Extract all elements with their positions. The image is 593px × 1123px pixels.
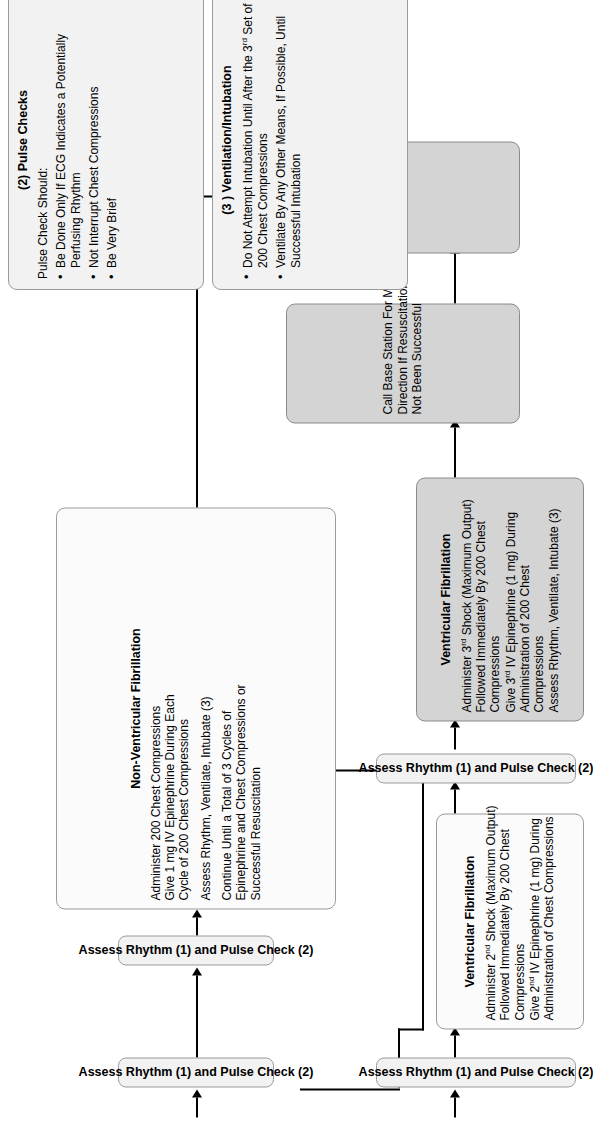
box-ventricular-fibrillation-3rd[interactable]: Ventricular Fibrillation Administer 3rd …	[416, 477, 584, 721]
box-line: Direction If Resuscitation Has	[396, 312, 410, 414]
box-line: Followed Immediately By 200 Chest	[498, 822, 512, 1020]
box-line: Epinephrine and Chest Compressions or	[234, 516, 248, 900]
note-bullet: Do Not Attempt Intubation Until After th…	[240, 1, 271, 279]
box-line: Successful Resuscitation	[249, 516, 263, 900]
assess-rhythm-bar-2-label: Assess Rhythm (1) and Pulse Check (2)	[79, 943, 314, 957]
arrowhead-in-bar3	[192, 1089, 202, 1097]
note-title: (3 ) Ventilation/Intubation	[220, 1, 234, 279]
connector-in-bar1	[454, 1097, 456, 1117]
assess-rhythm-bar-2[interactable]: Assess Rhythm (1) and Pulse Check (2)	[118, 935, 274, 965]
assess-rhythm-bar-3[interactable]: Assess Rhythm (1) and Pulse Check (2)	[376, 1057, 576, 1087]
assess-rhythm-bar-1[interactable]: Assess Rhythm (1) and Pulse Check (2)	[118, 1057, 274, 1087]
note-bullet: Be Done Only If ECG Indicates a Potentia…	[54, 1, 84, 279]
spacer	[213, 516, 220, 900]
box-line: Administer 2nd Shock (Maximum Output)	[483, 822, 498, 1020]
box-line: Give 2nd IV Epinephrine (1 mg) During	[527, 822, 542, 1020]
box-title: Ventricular Fibrillation	[463, 822, 478, 1020]
box-title: Ventricular Fibrillation	[439, 486, 454, 712]
note-pulse-checks[interactable]: (2) Pulse Checks Pulse Check Should: Be …	[8, 0, 204, 290]
box-line: Administration of Chest Compressions	[542, 822, 556, 1020]
note-bullet: Not Interrupt Chest Compressions	[87, 1, 102, 279]
box-non-ventricular-fibrillation[interactable]: Non-Ventricular Fibrillation Administer …	[56, 507, 336, 909]
note-ventilation-intubation[interactable]: (3 ) Ventilation/Intubation Do Not Attem…	[212, 0, 408, 290]
box-line: Administer 3rd Shock (Maximum Output)	[459, 486, 474, 712]
box-ventricular-fibrillation-2nd[interactable]: Ventricular Fibrillation Administer 2nd …	[436, 813, 584, 1029]
assess-rhythm-bar-4-label: Assess Rhythm (1) and Pulse Check (2)	[359, 761, 593, 775]
arrowhead-bar3-bar4	[192, 967, 202, 975]
note-title: (2) Pulse Checks	[16, 1, 30, 279]
box-line: Compressions	[513, 822, 527, 1020]
box-line: Not Been Successful	[410, 312, 424, 414]
box-title: Non-Ventricular Fibrillation	[129, 516, 144, 900]
box-line: Give 1 mg IV Epinephrine During Each	[163, 516, 177, 900]
note-bullet: Ventilate By Any Other Means, If Possibl…	[274, 1, 304, 279]
box-line: Give 3rd IV Epinephrine (1 mg) During	[503, 486, 518, 712]
connector-bar2-vf3	[454, 727, 456, 749]
box-line: Administration of 200 Chest	[518, 486, 532, 712]
box-line: Assess Rhythm, Ventilate, Intubate (3)	[199, 516, 213, 900]
box-line: Compressions	[488, 486, 502, 712]
box-line: Compressions	[532, 486, 546, 712]
box-line: Assess Rhythm, Ventilate, Intubate (3)	[547, 486, 561, 712]
connector-in-bar3	[196, 1097, 198, 1117]
spacer	[192, 516, 199, 900]
box-call-base-station[interactable]: Call Base Station For Medical Direction …	[286, 303, 520, 423]
connector-vf2-bar2	[454, 789, 456, 813]
assess-rhythm-bar-4[interactable]: Assess Rhythm (1) and Pulse Check (2)	[376, 753, 576, 783]
note-intro: Pulse Check Should:	[36, 1, 51, 279]
connector-vf3-callbase	[454, 427, 456, 477]
connector-bar1-vf2	[454, 1035, 456, 1057]
note-bullet: Be Very Brief	[105, 1, 120, 279]
connector-bar4-nonvf	[196, 917, 198, 935]
connector-callbase-aha	[454, 253, 456, 303]
box-line: Administer 200 Chest Compressions	[149, 516, 163, 900]
arrowhead-bar4-nonvf	[192, 909, 202, 917]
connector-bar3-bar4	[196, 975, 198, 1057]
connector-horizontal-branch	[422, 769, 424, 1030]
connector-branch-riser	[398, 1028, 424, 1030]
box-line: Continue Until a Total of 3 Cycles of	[220, 516, 234, 900]
connector-elbow-vertical-left	[300, 1088, 400, 1090]
box-line: Cycle of 200 Chest Compressions	[177, 516, 191, 900]
assess-rhythm-bar-3-label: Assess Rhythm (1) and Pulse Check (2)	[359, 1065, 593, 1079]
box-line: Call Base Station For Medical	[381, 312, 395, 414]
box-line: Followed Immediately By 200 Chest	[474, 486, 488, 712]
assess-rhythm-bar-1-label: Assess Rhythm (1) and Pulse Check (2)	[79, 1065, 314, 1079]
arrowhead-in-bar1	[450, 1089, 460, 1097]
